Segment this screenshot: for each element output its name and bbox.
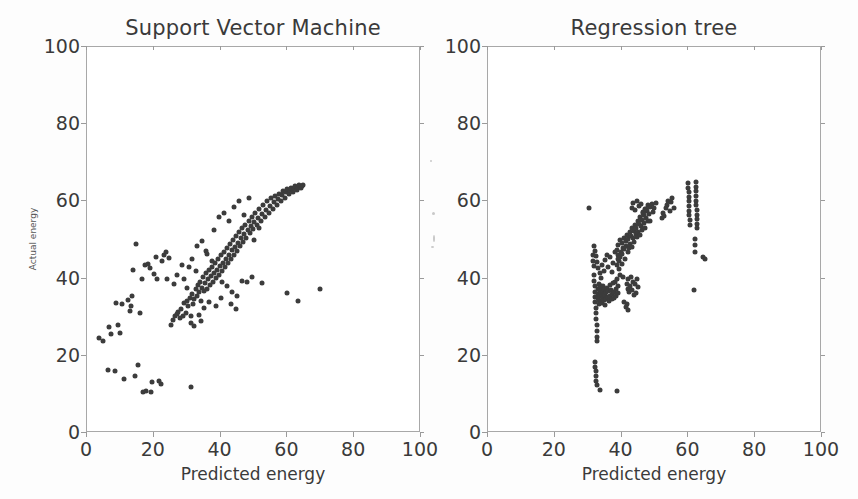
data-point	[693, 249, 698, 254]
x-axis-title-right: Predicted energy	[582, 464, 726, 484]
y-axis-tick	[482, 123, 487, 124]
x-tick-label: 40	[609, 438, 633, 460]
y-tick-label: 100	[34, 35, 80, 57]
data-point	[231, 205, 236, 210]
y-axis-tick	[81, 278, 86, 279]
data-point	[137, 310, 142, 315]
chart-title-support-vector-machine: Support Vector Machine	[86, 16, 420, 40]
data-point	[671, 206, 676, 211]
data-point	[198, 319, 203, 324]
data-point	[189, 384, 194, 389]
y-axis-tick-right	[821, 200, 825, 201]
y-axis-title-left: Actual energy	[28, 208, 38, 270]
data-point	[160, 258, 165, 263]
data-point	[318, 287, 323, 292]
data-point	[637, 232, 642, 237]
data-point	[211, 228, 216, 233]
x-axis-tick	[353, 432, 354, 437]
data-point	[632, 239, 637, 244]
data-point	[190, 257, 195, 262]
data-point	[695, 226, 700, 231]
data-point	[107, 325, 112, 330]
y-axis-tick	[81, 432, 86, 433]
data-point	[105, 368, 110, 373]
data-point	[201, 305, 206, 310]
data-point	[205, 251, 210, 256]
x-axis-tick	[687, 432, 688, 437]
scan-artifact	[431, 246, 434, 248]
x-tick-label: 60	[675, 438, 699, 460]
x-tick-label: 80	[341, 438, 365, 460]
data-point	[198, 298, 203, 303]
x-axis-tick-top	[286, 46, 287, 50]
plot-area-right	[488, 47, 820, 431]
data-point	[200, 238, 205, 243]
data-point	[670, 195, 675, 200]
data-point	[101, 339, 106, 344]
data-point	[136, 363, 141, 368]
data-point	[243, 235, 248, 240]
data-point	[206, 299, 211, 304]
data-point	[594, 260, 599, 265]
data-point	[191, 323, 196, 328]
data-point	[607, 255, 612, 260]
x-axis-tick	[286, 432, 287, 437]
x-axis-tick-top	[754, 46, 755, 50]
data-point	[188, 313, 193, 318]
x-axis-tick-top	[153, 46, 154, 50]
data-point	[642, 207, 647, 212]
data-point	[150, 380, 155, 385]
data-point	[616, 291, 621, 296]
data-point	[116, 323, 121, 328]
data-point	[221, 210, 226, 215]
data-point	[155, 276, 160, 281]
y-tick-label: 80	[435, 112, 481, 134]
y-axis-tick	[81, 200, 86, 201]
data-point	[167, 256, 172, 261]
data-point	[687, 222, 692, 227]
data-point	[117, 331, 122, 336]
data-point	[691, 288, 696, 293]
y-axis-tick-right	[821, 355, 825, 356]
data-point	[228, 301, 233, 306]
y-tick-label: 20	[435, 344, 481, 366]
data-point	[594, 328, 599, 333]
data-point	[235, 293, 240, 298]
data-point	[186, 265, 191, 270]
data-point	[130, 294, 135, 299]
data-point	[175, 272, 180, 277]
data-point	[648, 218, 653, 223]
y-axis-tick-right	[821, 123, 825, 124]
data-point	[257, 226, 262, 231]
data-point	[119, 302, 124, 307]
y-axis-tick-right	[420, 278, 424, 279]
data-point	[266, 210, 271, 215]
data-point	[669, 200, 674, 205]
data-point	[693, 237, 698, 242]
x-tick-label: 20	[141, 438, 165, 460]
x-axis-tick-top	[687, 46, 688, 50]
data-point	[594, 317, 599, 322]
data-point	[148, 390, 153, 395]
data-point	[586, 205, 591, 210]
data-point	[593, 311, 598, 316]
data-point	[185, 286, 190, 291]
data-point	[594, 322, 599, 327]
plot-frame-left	[86, 46, 420, 432]
data-point	[128, 304, 133, 309]
x-tick-label: 0	[481, 438, 493, 460]
data-point	[163, 249, 168, 254]
data-point	[225, 261, 230, 266]
x-tick-label: 100	[803, 438, 839, 460]
data-point	[619, 261, 624, 266]
y-axis-tick	[81, 123, 86, 124]
data-point	[171, 282, 176, 287]
support-vector-machine-panel: Support Vector Machine 02040608010002040…	[0, 0, 429, 499]
data-point	[225, 284, 230, 289]
data-point	[131, 267, 136, 272]
data-point	[626, 308, 631, 313]
scan-artifact	[432, 212, 435, 215]
x-axis-tick-top	[353, 46, 354, 50]
data-point	[250, 274, 255, 279]
data-point	[236, 199, 241, 204]
